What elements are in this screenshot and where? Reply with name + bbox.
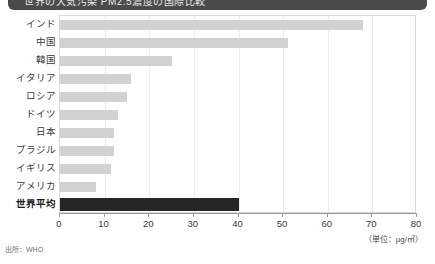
pm25-bar-chart: 世界の大気汚染 PM2.5濃度の国際比較 （単位：μg/㎥） 出所：WHO イン… — [0, 0, 435, 264]
bar-1 — [60, 38, 288, 48]
category-label: ブラジル — [0, 141, 56, 159]
bar-row — [60, 52, 415, 70]
x-tick-label: 50 — [277, 218, 288, 229]
x-tick — [416, 213, 417, 217]
plot-area — [59, 15, 416, 213]
bar-row — [60, 16, 415, 34]
bar-row — [60, 70, 415, 88]
x-tick-label: 30 — [188, 218, 199, 229]
x-tick — [327, 213, 328, 217]
bar-0 — [60, 20, 363, 30]
x-tick — [193, 213, 194, 217]
category-label: 中国 — [0, 33, 56, 51]
bar-row — [60, 142, 415, 160]
x-tick — [238, 213, 239, 217]
x-tick-label: 10 — [98, 218, 109, 229]
category-label: 日本 — [0, 123, 56, 141]
bar-4 — [60, 92, 127, 102]
bar-2 — [60, 56, 172, 66]
bar-row — [60, 34, 415, 52]
x-axis-line — [59, 213, 416, 214]
x-tick — [371, 213, 372, 217]
bar-row — [60, 178, 415, 196]
bar-row — [60, 124, 415, 142]
category-label: イギリス — [0, 159, 56, 177]
bar-row — [60, 160, 415, 178]
category-label: ロシア — [0, 87, 56, 105]
x-tick-label: 40 — [232, 218, 243, 229]
x-tick — [59, 213, 60, 217]
category-label: 韓国 — [0, 51, 56, 69]
category-label: イタリア — [0, 69, 56, 87]
x-tick — [282, 213, 283, 217]
bar-8 — [60, 164, 111, 174]
bar-9 — [60, 182, 96, 192]
category-label: アメリカ — [0, 177, 56, 195]
x-tick-label: 80 — [411, 218, 422, 229]
bar-row — [60, 88, 415, 106]
bar-6 — [60, 128, 114, 138]
x-tick — [148, 213, 149, 217]
bar-row — [60, 106, 415, 124]
banner-title: 世界の大気汚染 PM2.5濃度の国際比較 — [24, 0, 206, 8]
bar-10 — [60, 198, 239, 211]
bar-3 — [60, 74, 131, 84]
bar-row — [60, 196, 415, 214]
x-tick — [104, 213, 105, 217]
x-tick-label: 70 — [366, 218, 377, 229]
source-note: 出所：WHO — [5, 244, 43, 254]
x-tick-label: 20 — [143, 218, 154, 229]
category-label: 世界平均 — [0, 195, 56, 213]
chart-banner: 世界の大気汚染 PM2.5濃度の国際比較 — [8, 0, 427, 10]
axis-unit-label: （単位：μg/㎥） — [364, 233, 423, 244]
category-label: ドイツ — [0, 105, 56, 123]
bar-5 — [60, 110, 118, 120]
bar-7 — [60, 146, 114, 156]
x-tick-label: 0 — [56, 218, 61, 229]
x-tick-label: 60 — [321, 218, 332, 229]
category-label: インド — [0, 15, 56, 33]
